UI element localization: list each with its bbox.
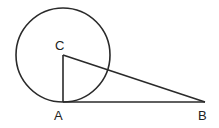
label-b: B [198, 108, 207, 123]
label-c: C [55, 38, 64, 53]
geometry-diagram: C A B [0, 0, 219, 128]
label-a: A [54, 108, 63, 123]
segment-cb [63, 55, 205, 102]
